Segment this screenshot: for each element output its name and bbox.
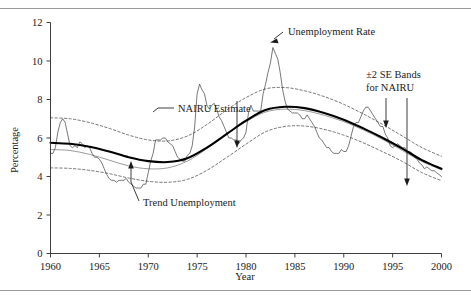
se-band-lower [51, 126, 442, 183]
se-bands-group [51, 87, 442, 182]
y-tick-label: 4 [37, 171, 43, 182]
x-tick-label: 1965 [89, 261, 110, 272]
y-axis-title: Percentage [9, 127, 20, 173]
nairu-estimate-path [51, 107, 442, 169]
x-tick-labels: 196019651970197519801985199019952000 [40, 261, 452, 272]
chart-canvas: 024681012 196019651970197519801985199019… [0, 0, 471, 302]
x-tick-label: 1975 [187, 261, 208, 272]
leader-line-nairu [153, 108, 174, 112]
x-tick-label: 2000 [431, 261, 452, 272]
leader-arrowhead-nairu [234, 141, 240, 149]
y-tick-labels: 024681012 [32, 17, 43, 259]
x-tick-label: 1990 [333, 261, 354, 272]
x-tick-label: 1970 [138, 261, 159, 272]
y-tick-label: 2 [37, 210, 42, 221]
y-tick-label: 10 [32, 56, 43, 67]
x-tick-label: 1985 [284, 261, 305, 272]
trend-unemployment-line [51, 109, 442, 170]
leader-arrowhead-bands-lower [404, 179, 410, 187]
y-axis-ticks [47, 23, 51, 254]
y-tick-label: 12 [32, 17, 43, 28]
x-tick-label: 1995 [382, 261, 403, 272]
y-tick-label: 0 [37, 248, 42, 259]
x-axis-title: Year [235, 271, 255, 282]
y-tick-label: 8 [37, 94, 42, 105]
trend-unemployment-path [51, 109, 442, 170]
annotation-nairu-estimate: NAIRU Estimate [178, 103, 251, 114]
annotation-unemployment-rate: Unemployment Rate [288, 26, 376, 37]
nairu-estimate-line [51, 107, 442, 169]
annotation-se-bands-line2: for NAIRU [366, 82, 415, 93]
leader-line-unemployment [274, 32, 283, 39]
leader-arrowhead-bands-upper [383, 121, 389, 129]
leader-arrowhead-trend [128, 161, 134, 169]
y-tick-label: 6 [37, 133, 42, 144]
x-axis-ticks [51, 254, 442, 258]
figure-container: 024681012 196019651970197519801985199019… [0, 0, 471, 302]
annotation-leader-lines [128, 32, 410, 201]
annotation-se-bands-line1: ±2 SE Bands [366, 69, 421, 80]
x-tick-label: 1960 [40, 261, 61, 272]
axes-group [47, 23, 442, 258]
leader-line-trend [131, 182, 139, 201]
x-tick-label: 1980 [236, 261, 257, 272]
annotation-trend-unemployment: Trend Unemployment [143, 197, 236, 208]
